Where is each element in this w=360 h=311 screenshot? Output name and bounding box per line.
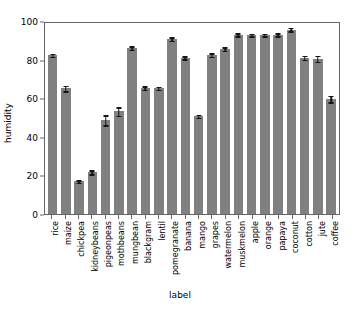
bar[interactable]	[313, 59, 323, 214]
bar[interactable]	[207, 55, 217, 214]
y-axis-label: humidity	[3, 103, 13, 143]
bar[interactable]	[181, 58, 191, 214]
error-bar-cap	[209, 57, 214, 59]
x-tick-mark	[292, 215, 293, 219]
bar[interactable]	[300, 58, 310, 214]
bar[interactable]	[287, 30, 297, 214]
x-tick-label-slot: jute	[312, 221, 325, 291]
x-tick-label-slot: muskmelon	[232, 221, 245, 291]
x-tick-label-slot: banana	[179, 221, 192, 291]
x-tick-mark	[211, 215, 212, 219]
bar[interactable]	[154, 88, 164, 214]
bar[interactable]	[194, 116, 204, 214]
bar-slot	[86, 23, 99, 214]
x-tick-label-slot: chickpea	[72, 221, 85, 291]
error-bar-cap	[236, 36, 241, 38]
error-bar-cap	[170, 37, 175, 39]
error-bar-cap	[130, 50, 135, 52]
error-bar	[105, 115, 107, 125]
error-bar-cap	[63, 91, 68, 93]
bar-slot	[311, 23, 324, 214]
x-tick-label-slot: orange	[259, 221, 272, 291]
bar[interactable]	[114, 111, 124, 214]
bar-slot	[126, 23, 139, 214]
error-bar-cap	[196, 115, 201, 117]
x-tick-mark	[318, 215, 319, 219]
bar[interactable]	[167, 39, 177, 214]
bar[interactable]	[127, 48, 137, 214]
x-tick-label-slot: watermelon	[219, 221, 232, 291]
x-tick-label-slot: maize	[58, 221, 71, 291]
bar[interactable]	[326, 99, 336, 214]
bar[interactable]	[61, 88, 71, 214]
bar[interactable]	[234, 35, 244, 214]
x-tick-label-slot: grapes	[205, 221, 218, 291]
bar[interactable]	[220, 49, 230, 214]
bar[interactable]	[88, 172, 98, 214]
x-tick-mark	[198, 215, 199, 219]
x-tick-label-slot: mango	[192, 221, 205, 291]
y-tick-label: 40	[27, 133, 38, 142]
error-bar-cap	[156, 87, 161, 89]
x-tick-label-slot: coconut	[285, 221, 298, 291]
bar-slot	[59, 23, 72, 214]
bar-slot	[285, 23, 298, 214]
error-bar-cap	[315, 56, 320, 58]
bar-slot	[218, 23, 231, 214]
x-tick-mark	[171, 215, 172, 219]
error-bar-cap	[262, 36, 267, 38]
x-tick-label-slot: coffee	[326, 221, 339, 291]
error-bar-cap	[209, 53, 214, 55]
x-tick-label-slot: rice	[45, 221, 58, 291]
x-tick-label-slot: lentil	[152, 221, 165, 291]
x-tick-mark	[51, 215, 52, 219]
x-tick-mark	[91, 215, 92, 219]
error-bar-cap	[223, 47, 228, 49]
y-tick-label: 60	[27, 95, 38, 104]
error-bar-cap	[90, 174, 95, 176]
bar[interactable]	[247, 35, 257, 214]
x-tick-label-slot: mungbean	[125, 221, 138, 291]
x-tick-mark	[185, 215, 186, 219]
error-bar-cap	[315, 62, 320, 64]
y-tick-label: 80	[27, 56, 38, 65]
error-bar-cap	[249, 36, 254, 38]
bar-chart-figure: humidity 020406080100 ricemaizechickpeak…	[0, 0, 360, 311]
x-tick-mark	[158, 215, 159, 219]
x-tick-label-slot: mothbeans	[112, 221, 125, 291]
bar[interactable]	[74, 181, 84, 214]
x-tick-mark	[78, 215, 79, 219]
x-tick-mark	[278, 215, 279, 219]
error-bar-cap	[116, 116, 121, 118]
bar[interactable]	[260, 35, 270, 214]
error-bar-cap	[289, 28, 294, 30]
error-bar-cap	[63, 86, 68, 88]
bar[interactable]	[101, 120, 111, 214]
error-bar-cap	[276, 33, 281, 35]
error-bar-cap	[236, 33, 241, 35]
error-bar-cap	[50, 54, 55, 56]
error-bar-cap	[183, 56, 188, 58]
bar-slot	[232, 23, 245, 214]
bar-slot	[245, 23, 258, 214]
bar[interactable]	[48, 55, 58, 214]
error-bar-cap	[103, 115, 108, 117]
error-bar-cap	[103, 125, 108, 127]
x-tick-label-slot: papaya	[272, 221, 285, 291]
bar[interactable]	[141, 88, 151, 214]
x-tick-mark	[145, 215, 146, 219]
error-bar-cap	[262, 34, 267, 36]
error-bar-cap	[329, 102, 334, 104]
bar-slot	[165, 23, 178, 214]
x-tick-mark	[118, 215, 119, 219]
bar[interactable]	[273, 35, 283, 214]
x-tick-label-slot: kidneybeans	[85, 221, 98, 291]
error-bar-cap	[130, 46, 135, 48]
x-tick-mark	[105, 215, 106, 219]
error-bar-cap	[249, 34, 254, 36]
bar-slot	[205, 23, 218, 214]
x-tick-label-slot: cotton	[299, 221, 312, 291]
error-bar-cap	[329, 96, 334, 98]
y-tick-label: 100	[21, 18, 38, 27]
error-bar-cap	[90, 170, 95, 172]
